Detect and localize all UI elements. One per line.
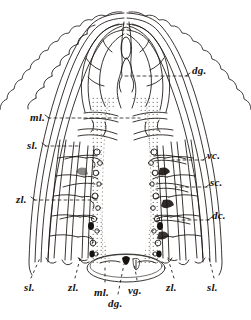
central-nerve-cord	[117, 22, 136, 108]
label-vg-bottom: vg.	[128, 285, 142, 296]
label-sc-right: sc.	[210, 177, 223, 188]
illustration-plate: dg. vc. sc. dc. ml. sl. zl. sl. zl. ml. …	[0, 0, 251, 320]
label-zl-left: zl.	[16, 194, 27, 205]
label-zl-bottom-right: zl.	[166, 282, 177, 293]
label-sl-bottom-left: sl.	[24, 282, 35, 293]
label-ml-bottom: ml.	[94, 287, 109, 298]
label-sl-bottom-right: sl.	[207, 282, 218, 293]
label-dg-right: dg.	[192, 65, 206, 76]
label-ml-left: ml.	[30, 112, 45, 123]
label-dg-bottom: dg.	[108, 298, 122, 309]
label-zl-bottom-left: zl.	[68, 282, 79, 293]
label-vc-right: vc.	[207, 150, 220, 161]
label-sl-left: sl.	[27, 140, 38, 151]
label-dc-right: dc.	[212, 210, 226, 221]
median-stippled-band	[92, 96, 160, 280]
